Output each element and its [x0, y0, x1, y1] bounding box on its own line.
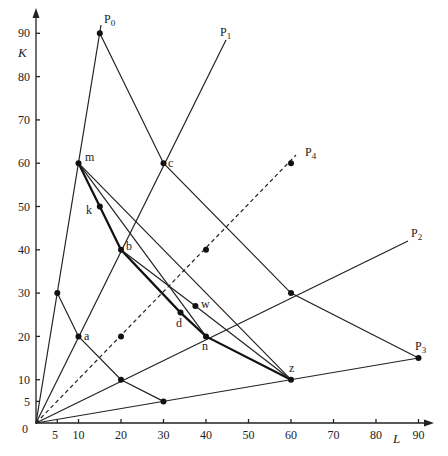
isoquants	[57, 33, 418, 401]
y-tick-label: 30	[18, 286, 30, 300]
point-p3-5	[161, 398, 167, 404]
y-tick-label: 50	[18, 200, 30, 214]
point-k	[97, 204, 103, 210]
isoquant-diagram: 5 10 20 30 40 50 60 70 80 90 K 5 1	[0, 0, 448, 456]
point-p3	[416, 355, 422, 361]
ray-p2	[36, 241, 408, 423]
point-p4-60	[288, 160, 294, 166]
point-p4-40	[203, 247, 209, 253]
y-tick-label: 90	[18, 26, 30, 40]
x-axis-title: L	[392, 431, 400, 446]
point-d	[178, 310, 184, 316]
line-m-n	[79, 163, 207, 336]
origin-label: 0	[22, 422, 28, 436]
ray-p4-dashed	[36, 155, 296, 423]
point-p4-20	[118, 333, 124, 339]
x-tick-label: 60	[285, 428, 297, 442]
y-tick-label: 40	[18, 243, 30, 257]
point-p2-10	[118, 377, 124, 383]
line-b-w-z	[121, 250, 291, 380]
point-c	[161, 160, 167, 166]
ray-label-p4: P4	[305, 145, 317, 161]
x-axis-arrow-icon	[424, 420, 434, 427]
label-n: n	[202, 339, 208, 353]
y-axis-title: K	[17, 45, 28, 60]
points	[54, 30, 421, 404]
x-tick-labels: 5 10 20 30 40 50 60 70 80 90	[52, 428, 425, 442]
y-tick-label: 20	[18, 330, 30, 344]
y-tick-label: 60	[18, 156, 30, 170]
point-m	[76, 160, 82, 166]
point-p0	[97, 30, 103, 36]
x-tick-label: 40	[200, 428, 212, 442]
label-b: b	[126, 239, 132, 253]
x-tick-label: 20	[115, 428, 127, 442]
ray-p3	[36, 358, 419, 423]
x-tick-label: 30	[158, 428, 170, 442]
label-k: k	[86, 203, 92, 217]
ray-label-p0: P0	[104, 12, 116, 28]
x-tick-label: 5	[52, 428, 58, 442]
label-z: z	[289, 361, 294, 375]
y-tick-labels: 5 10 20 30 40 50 60 70 80 90	[18, 26, 30, 408]
point-w	[192, 303, 198, 309]
y-tick-label: 5	[24, 395, 30, 409]
x-tick-label: 90	[413, 428, 425, 442]
x-tick-label: 80	[370, 428, 382, 442]
x-tick-label: 50	[243, 428, 255, 442]
y-tick-label: 70	[18, 113, 30, 127]
label-a: a	[84, 329, 90, 343]
x-tick-label: 10	[73, 428, 85, 442]
ray-p0	[36, 25, 101, 423]
y-tick-label: 10	[18, 373, 30, 387]
ray-label-p1: P1	[220, 25, 231, 41]
line-m-z-upper	[79, 163, 292, 380]
point-p2-30	[288, 290, 294, 296]
y-axis-arrow-icon	[33, 8, 40, 18]
ray-label-p2: P2	[411, 226, 422, 242]
ray-label-p3: P3	[415, 339, 427, 355]
label-d: d	[176, 316, 182, 330]
label-m: m	[85, 150, 95, 164]
label-w: w	[201, 297, 210, 311]
y-tick-label: 80	[18, 70, 30, 84]
label-c: c	[168, 156, 173, 170]
x-tick-label: 70	[328, 428, 340, 442]
isoquant-outer	[100, 33, 419, 358]
point-z	[288, 377, 294, 383]
point-p0-30	[54, 290, 60, 296]
ray-labels: P0 P1 P2 P3 P4	[104, 12, 427, 355]
point-b	[118, 247, 124, 253]
process-rays	[36, 25, 419, 423]
point-a	[76, 333, 82, 339]
